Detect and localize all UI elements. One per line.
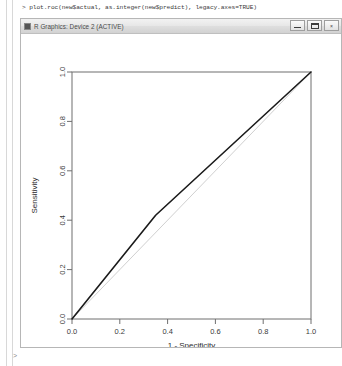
console-prompt-caret: > bbox=[13, 352, 17, 360]
window-title-text: R Graphics: Device 2 (ACTIVE) bbox=[34, 23, 124, 30]
x-axis-tick-label: 0.6 bbox=[210, 327, 220, 336]
x-axis-tick-label: 0.2 bbox=[115, 327, 125, 336]
y-axis-tick-label: 0.2 bbox=[58, 264, 67, 274]
x-axis-tick-label: 1.0 bbox=[306, 327, 316, 336]
maximize-button[interactable] bbox=[307, 20, 322, 31]
r-graphics-device-window: R Graphics: Device 2 (ACTIVE) × 0.00.20.… bbox=[20, 18, 342, 348]
y-axis-tick-label: 0.8 bbox=[58, 116, 67, 126]
console-divider-inner bbox=[12, 0, 13, 366]
minimize-icon bbox=[294, 27, 301, 28]
x-axis-title: 1 - Specificity bbox=[168, 341, 216, 347]
roc-plot-svg: 0.00.20.40.60.81.00.00.20.40.60.81.01 - … bbox=[21, 34, 341, 347]
y-axis-tick-label: 0.0 bbox=[58, 314, 67, 324]
r-graphics-icon bbox=[24, 23, 31, 30]
series-chance-diagonal bbox=[72, 72, 311, 319]
y-axis-tick-label: 0.6 bbox=[58, 166, 67, 176]
y-axis-tick-label: 0.4 bbox=[58, 215, 67, 225]
x-axis-tick-label: 0.8 bbox=[258, 327, 268, 336]
window-controls: × bbox=[290, 20, 339, 31]
roc-plot-canvas: 0.00.20.40.60.81.00.00.20.40.60.81.01 - … bbox=[21, 34, 341, 347]
y-axis-tick-label: 1.0 bbox=[58, 67, 67, 77]
x-axis-tick-label: 0.4 bbox=[162, 327, 172, 336]
close-icon: × bbox=[330, 23, 333, 28]
minimize-button[interactable] bbox=[290, 20, 305, 31]
close-button[interactable]: × bbox=[324, 20, 339, 31]
window-title-bar[interactable]: R Graphics: Device 2 (ACTIVE) × bbox=[21, 19, 341, 34]
maximize-icon bbox=[311, 23, 319, 29]
y-axis-title: Sensitivity bbox=[30, 177, 39, 213]
x-axis-tick-label: 0.0 bbox=[67, 327, 77, 336]
console-command-line: > plot.roc(new$actual, as.integer(new$pr… bbox=[22, 3, 257, 13]
console-divider-outer bbox=[6, 0, 7, 366]
